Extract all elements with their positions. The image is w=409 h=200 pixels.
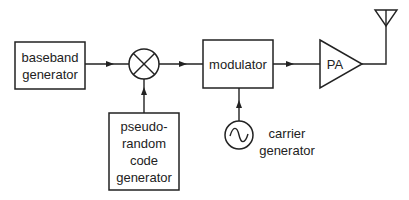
edge-baseband-mixer: [85, 61, 129, 67]
pn-code-generator-block: pseudo- random code generator: [109, 113, 179, 190]
block-diagram: baseband generator pseudo- random code g…: [0, 0, 409, 200]
carrier-label-1: carrier: [269, 126, 307, 141]
pn-label-4: generator: [116, 170, 172, 185]
pa-label: PA: [327, 57, 344, 72]
modulator-block: modulator: [203, 40, 273, 88]
edge-modulator-pa: [273, 61, 320, 67]
pn-label-1: pseudo-: [121, 119, 168, 134]
pn-label-3: code: [130, 153, 158, 168]
edge-mixer-modulator: [159, 61, 203, 67]
edge-pa-antenna: [362, 26, 386, 64]
mixer-icon: [129, 49, 159, 79]
sine-oscillator-icon: [225, 121, 253, 149]
baseband-generator-block: baseband generator: [15, 42, 85, 89]
power-amplifier-block: PA: [320, 40, 362, 88]
edge-pn-mixer: [141, 79, 147, 113]
pn-label-2: random: [122, 136, 166, 151]
antenna-icon: [375, 10, 397, 26]
baseband-label-2: generator: [22, 67, 78, 82]
carrier-label-2: generator: [259, 143, 315, 158]
modulator-label: modulator: [209, 57, 267, 72]
edge-carrier-modulator: [236, 88, 242, 121]
baseband-label-1: baseband: [21, 50, 78, 65]
